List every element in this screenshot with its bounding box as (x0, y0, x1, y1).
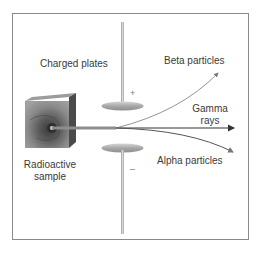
gamma-rays-label: Gamma rays (190, 103, 230, 127)
lower-rod (121, 150, 124, 234)
positive-sign: + (130, 87, 135, 99)
alpha-particles-label: Alpha particles (157, 155, 223, 167)
negative-sign: – (130, 163, 135, 175)
beta-particles-label: Beta particles (164, 55, 225, 67)
radioactive-sample-block (25, 93, 76, 148)
upper-rod (121, 22, 124, 105)
apparatus-illustration (0, 0, 263, 257)
upper-plate (102, 102, 144, 111)
radioactive-sample-label-line2: sample (20, 171, 80, 183)
negative-plate (102, 144, 144, 235)
gamma-rays-label-line2: rays (190, 115, 230, 127)
charged-plates-label: Charged plates (40, 58, 108, 70)
gamma-rays-label-line1: Gamma (190, 103, 230, 115)
radioactive-sample-label: Radioactive sample (20, 159, 80, 183)
radiation-beam (52, 127, 116, 130)
radioactive-sample-label-line1: Radioactive (20, 159, 80, 171)
